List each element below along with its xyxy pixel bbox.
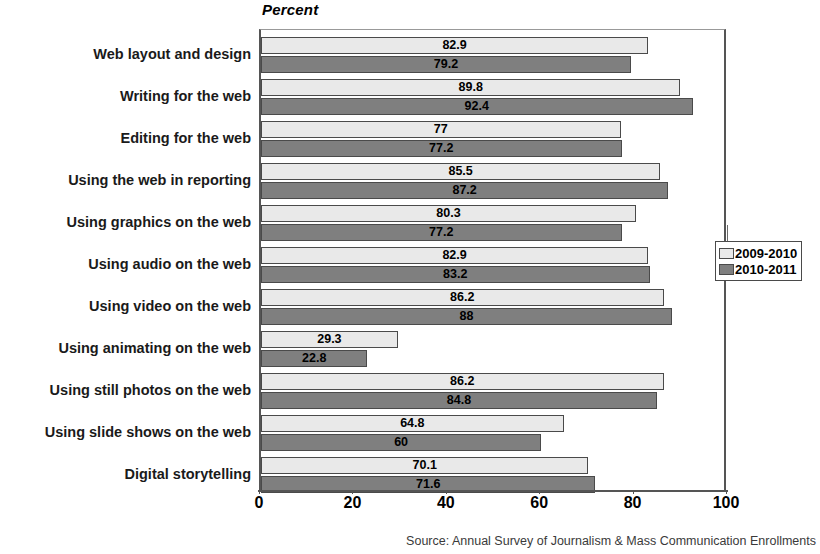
bar-group: 89.892.4 — [261, 79, 728, 117]
bar-value-label: 86.2 — [261, 373, 664, 390]
category-label: Using slide shows on the web — [0, 424, 251, 440]
bar-group: 29.322.8 — [261, 331, 728, 369]
x-tick-label: 0 — [229, 494, 289, 512]
legend: 2009-20102010-2011 — [715, 241, 802, 281]
bar-value-label: 79.2 — [261, 56, 631, 73]
category-axis-labels: Web layout and designWriting for the web… — [0, 29, 251, 491]
legend-item-2010-2011: 2010-2011 — [719, 261, 797, 277]
x-tick-label: 100 — [696, 494, 756, 512]
bar-group: 86.288 — [261, 289, 728, 327]
x-axis-tick-labels: 020406080100 — [259, 494, 726, 518]
category-label: Web layout and design — [0, 46, 251, 62]
bar-value-label: 77.2 — [261, 140, 622, 157]
bar-value-label: 80.3 — [261, 205, 636, 222]
bar-group: 82.983.2 — [261, 247, 728, 285]
bar-value-label: 89.8 — [261, 79, 680, 96]
category-label: Writing for the web — [0, 88, 251, 104]
legend-item-2009-2010: 2009-2010 — [719, 245, 797, 261]
legend-label: 2009-2010 — [735, 246, 797, 261]
bar-value-label: 87.2 — [261, 182, 668, 199]
category-label: Using animating on the web — [0, 340, 251, 356]
source-note: Source: Annual Survey of Journalism & Ma… — [0, 534, 816, 548]
category-label: Digital storytelling — [0, 466, 251, 482]
category-label: Using graphics on the web — [0, 214, 251, 230]
legend-leader-line — [727, 225, 728, 242]
legend-swatch-icon — [719, 264, 734, 275]
bar-value-label: 83.2 — [261, 266, 650, 283]
category-label: Editing for the web — [0, 130, 251, 146]
category-label: Using the web in reporting — [0, 172, 251, 188]
bar-value-label: 82.9 — [261, 37, 648, 54]
bar-group: 82.979.2 — [261, 37, 728, 75]
x-tick-label: 80 — [603, 494, 663, 512]
x-tick-label: 40 — [416, 494, 476, 512]
bar-value-label: 82.9 — [261, 247, 648, 264]
legend-swatch-icon — [719, 248, 734, 259]
bar-value-label: 92.4 — [261, 98, 693, 115]
category-label: Using video on the web — [0, 298, 251, 314]
bar-group: 86.284.8 — [261, 373, 728, 411]
bar-group: 64.860 — [261, 415, 728, 453]
bar-value-label: 64.8 — [261, 415, 564, 432]
x-tick-label: 60 — [509, 494, 569, 512]
bar-value-label: 84.8 — [261, 392, 657, 409]
x-tick-label: 20 — [322, 494, 382, 512]
bar-value-label: 60 — [261, 434, 541, 451]
bar-value-label: 77 — [261, 121, 621, 138]
bar-value-label: 22.8 — [261, 350, 367, 367]
bar-value-label: 77.2 — [261, 224, 622, 241]
legend-label: 2010-2011 — [735, 262, 796, 277]
bar-value-label: 85.5 — [261, 163, 660, 180]
category-label: Using audio on the web — [0, 256, 251, 272]
bar-value-label: 86.2 — [261, 289, 664, 306]
bar-value-label: 88 — [261, 308, 672, 325]
bar-value-label: 70.1 — [261, 457, 588, 474]
bar-group: 85.587.2 — [261, 163, 728, 201]
bar-group: 7777.2 — [261, 121, 728, 159]
category-label: Using still photos on the web — [0, 382, 251, 398]
plot-area: 82.979.289.892.47777.285.587.280.377.282… — [259, 29, 726, 491]
bar-value-label: 29.3 — [261, 331, 398, 348]
x-axis-line — [258, 490, 728, 492]
bar-group: 80.377.2 — [261, 205, 728, 243]
x-axis-title: Percent — [262, 1, 318, 18]
